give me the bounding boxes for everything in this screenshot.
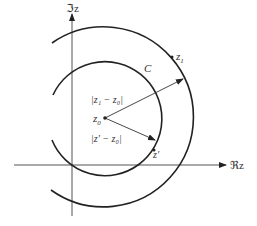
distance-inner-label: |z′ − z₀| — [91, 133, 122, 144]
contour-label: C — [144, 62, 152, 74]
imaginary-axis-label: ℑz — [66, 2, 79, 14]
distance-outer-label: |z₁ − z₀| — [91, 94, 123, 105]
center-point-z0 — [103, 116, 107, 120]
z0-label: z0 — [92, 112, 101, 127]
zprime-label: z′ — [152, 149, 160, 160]
complex-plane-diagram: ℑz ℜz C z1 z0 z′ |z₁ − z₀| |z′ − z₀| — [0, 0, 257, 226]
real-axis-label: ℜz — [230, 159, 244, 171]
point-z1 — [171, 56, 174, 59]
